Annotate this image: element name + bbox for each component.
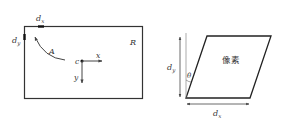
image-region-figure: dx dy A R c x y [12,14,143,99]
y-axis-label: y [73,73,79,82]
x-axis-label: x [96,51,101,60]
theta-label: θ [187,72,192,80]
region-r-label: R [129,38,136,47]
dx-label: dx [36,14,45,24]
dy-label: dy [12,36,21,47]
pixel-figure: dy θ dx 像素 [167,33,271,119]
pixel-label: 像素 [222,55,240,65]
theta-arc [186,80,191,82]
curve-a-label: A [48,47,55,56]
diagram-canvas: dx dy A R c x y dy θ dx 像素 [0,0,284,124]
image-region-rect [25,27,143,99]
point-c-label: c [75,57,80,66]
pixel-dy-label: dy [167,63,176,74]
pixel-dx-label: dx [213,109,222,119]
pixel-parallelogram [186,36,271,98]
